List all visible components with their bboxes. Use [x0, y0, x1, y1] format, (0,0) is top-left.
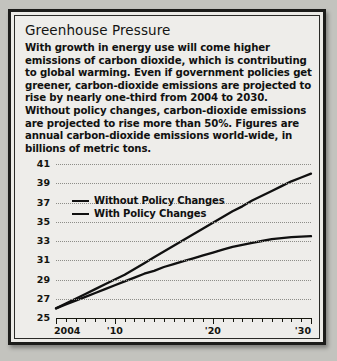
legend-line-swatch [72, 213, 89, 215]
y-axis-tick-label: 27 [37, 294, 50, 304]
x-axis-tick-label: '20 [205, 326, 221, 336]
y-axis-tick-label: 35 [37, 217, 50, 227]
x-axis-tick [252, 318, 253, 322]
y-axis-tick-label: 33 [37, 236, 50, 246]
y-axis-tick-label: 41 [37, 159, 50, 169]
gridline [56, 260, 311, 261]
y-axis-tick-label: 29 [37, 275, 50, 285]
y-axis-tick-label: 31 [37, 256, 50, 266]
gridline [56, 280, 311, 281]
x-axis-tick [164, 318, 165, 322]
x-axis-tick [174, 318, 175, 322]
x-axis-tick [223, 318, 224, 322]
y-axis-tick-label: 39 [37, 179, 50, 189]
x-axis-tick [272, 318, 273, 322]
x-axis-tick [85, 318, 86, 322]
chart-plot: 413937353331292725 2004'10'20'30 Without… [24, 161, 316, 339]
chart-card-inner: Greenhouse Pressure With growth in energ… [14, 15, 320, 339]
x-axis-tick [203, 318, 204, 322]
x-axis-tick [301, 318, 302, 322]
gridline [56, 299, 311, 300]
x-axis-tick-label: 2004 [54, 326, 80, 336]
y-axis-tick-label: 37 [37, 198, 50, 208]
series-line [56, 236, 311, 308]
gridline [56, 183, 311, 184]
legend-line-swatch [72, 200, 89, 202]
description-text: With growth in energy use will come high… [25, 42, 313, 155]
legend-item: With Policy Changes [72, 209, 225, 219]
gridline [56, 164, 311, 165]
x-axis-tick [193, 318, 194, 322]
legend-label: Without Policy Changes [94, 196, 225, 206]
legend-label: With Policy Changes [94, 209, 206, 219]
x-axis-tick [242, 318, 243, 322]
page-title: Greenhouse Pressure [25, 23, 310, 38]
x-axis-tick [291, 318, 292, 322]
chart-card-frame: Greenhouse Pressure With growth in energ… [8, 9, 326, 345]
chart-legend: Without Policy ChangesWith Policy Change… [72, 196, 225, 219]
y-axis-tick-label: 25 [37, 313, 50, 323]
x-axis-tick [66, 318, 67, 322]
chart-card-content: Greenhouse Pressure With growth in energ… [15, 16, 319, 338]
figure-background: Greenhouse Pressure With growth in energ… [0, 0, 337, 361]
x-axis-tick [213, 318, 214, 324]
gridline [56, 241, 311, 242]
x-axis-tick-label: '10 [107, 326, 123, 336]
x-axis-tick [233, 318, 234, 322]
x-axis-tick [282, 318, 283, 322]
x-axis-tick [56, 318, 57, 324]
x-axis-tick [144, 318, 145, 322]
x-axis-tick [262, 318, 263, 322]
plot-area: 413937353331292725 [56, 164, 311, 318]
legend-item: Without Policy Changes [72, 196, 225, 206]
x-axis-tick-label: '30 [295, 326, 311, 336]
x-axis-tick [115, 318, 116, 324]
x-axis-tick [311, 318, 312, 324]
x-axis-tick [134, 318, 135, 322]
x-axis-tick [76, 318, 77, 322]
x-axis-tick [184, 318, 185, 322]
x-axis-tick [125, 318, 126, 322]
x-axis-tick [95, 318, 96, 322]
x-axis-tick [105, 318, 106, 322]
x-axis-tick [154, 318, 155, 322]
gridline [56, 222, 311, 223]
